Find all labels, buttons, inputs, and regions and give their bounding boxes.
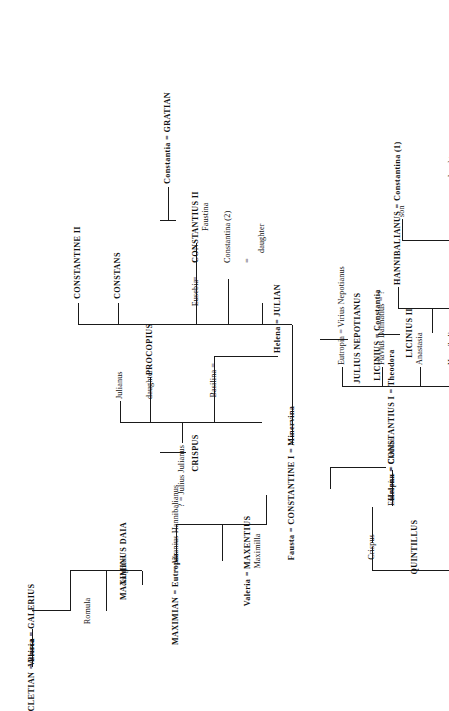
- connector-line: [330, 468, 331, 489]
- connector-line: [70, 570, 106, 571]
- node-anastasia: Anastasia: [416, 332, 425, 365]
- connector-line: [78, 324, 292, 325]
- node-faustina: Faustina: [202, 202, 211, 231]
- node-constantine-i: Fausta = CONSTANTINE I = Minervina: [288, 406, 297, 561]
- connector-line: [176, 524, 222, 525]
- node-gallus-son: son: [398, 205, 407, 217]
- connector-line: [32, 610, 70, 611]
- connector-line: [168, 187, 169, 221]
- node-eusebia: Eusebia: [192, 280, 201, 307]
- connector-line: [228, 279, 229, 325]
- node-helena-julian: Helena = JULIAN: [274, 284, 283, 353]
- connector-line: [160, 220, 176, 221]
- node-constans: CONSTANS: [114, 252, 123, 299]
- node-valeria-galerius: Valeria = GALERIUS: [28, 584, 37, 667]
- connector-line: [402, 240, 449, 241]
- node-equals-julian-daughter: =: [244, 258, 253, 263]
- connector-line: [420, 367, 421, 387]
- node-eutropia-virius: Eutropia = Virius Nepotianus: [338, 266, 347, 365]
- connector-line: [118, 303, 119, 325]
- connector-line: [214, 356, 278, 357]
- node-julian-daughter: daughter: [258, 224, 267, 253]
- connector-line: [182, 422, 262, 423]
- node-constantius-ii: CONSTANTIUS II: [192, 191, 201, 263]
- node-basilina: Basilina =: [210, 363, 219, 398]
- connector-line: [398, 287, 399, 309]
- node-julianus: Julianus: [116, 371, 125, 399]
- node-equals-eusebia: =: [192, 277, 201, 282]
- node-constantina-2: Constantina (2): [224, 211, 233, 263]
- node-procopius: PROCOPIUS: [146, 324, 155, 375]
- node-crispus: CRISPUS: [192, 434, 201, 471]
- node-constantine-ii: CONSTANTINE II: [74, 226, 83, 299]
- connector-line: [120, 422, 182, 423]
- connector-line: [106, 571, 107, 611]
- connector-line: [342, 367, 343, 387]
- node-licinius-ii: LICINIUS II: [406, 308, 415, 358]
- connector-line: [182, 423, 183, 443]
- connector-line: [266, 495, 267, 525]
- connector-line: [142, 571, 143, 585]
- connector-line: [262, 303, 263, 325]
- node-julius-nepotianus: JULIUS NEPOTIANUS: [354, 293, 363, 384]
- connector-line: [330, 467, 386, 468]
- connector-line: [222, 525, 223, 561]
- node-licinius-constantia: LICINIUS = Constantia: [374, 289, 383, 381]
- node-valeria-maxentius: Valeria = MAXENTIUS: [244, 516, 253, 607]
- node-crispus-elder: Crispus: [368, 534, 377, 560]
- node-maximinus-daia: MAXIMINUS DAIA: [120, 522, 129, 600]
- node-constantius-i: Helena = CONSTANTIUS I = Theodora: [388, 349, 397, 500]
- connector-line: [150, 401, 151, 423]
- node-romula: Romula: [84, 598, 93, 625]
- connector-line: [120, 401, 121, 423]
- node-constantia-gratian: Constantia = GRATIAN: [164, 92, 173, 184]
- connector-line: [70, 571, 71, 611]
- node-quintillus: QUINTILLUS: [411, 520, 420, 575]
- node-julius-julianus: ? = Julius Julianus: [178, 445, 187, 507]
- connector-line: [432, 309, 433, 333]
- connector-line: [78, 303, 79, 325]
- node-maximilla: Maximilla: [254, 533, 263, 568]
- stemma-canvas: DIOCLETIAN = Prisca CLAUDIUS II QUINTILL…: [0, 0, 449, 711]
